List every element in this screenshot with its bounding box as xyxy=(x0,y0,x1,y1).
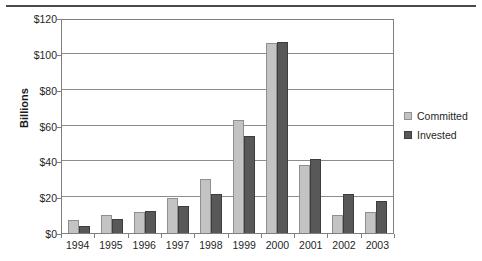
bar-invested-2003 xyxy=(376,201,387,233)
bar-group-1996 xyxy=(128,20,161,233)
y-tick-label-60: $60 xyxy=(11,121,57,133)
x-tick-mark-9 xyxy=(361,234,362,238)
x-tick-mark-3 xyxy=(161,234,162,238)
x-tick-mark-0 xyxy=(61,234,62,238)
bar-invested-2001 xyxy=(310,159,321,233)
plot-area xyxy=(61,19,394,234)
x-tick-mark-4 xyxy=(194,234,195,238)
bar-invested-1996 xyxy=(145,211,156,233)
x-tick-mark-7 xyxy=(294,234,295,238)
legend-swatch-committed-icon xyxy=(404,112,412,120)
bar-invested-1994 xyxy=(79,226,90,233)
bar-committed-2001 xyxy=(299,165,310,233)
chart-legend: CommittedInvested xyxy=(404,110,478,148)
bar-group-1998 xyxy=(194,20,227,233)
legend-item-invested: Invested xyxy=(404,129,478,141)
bar-group-1995 xyxy=(95,20,128,233)
x-tick-label-1999: 1999 xyxy=(227,239,260,251)
x-axis-ticks: 1994199519961997199819992000200120022003 xyxy=(61,239,394,251)
y-tick-label-100: $100 xyxy=(11,49,57,61)
legend-item-committed: Committed xyxy=(404,110,478,122)
bar-group-2001 xyxy=(294,20,327,233)
x-tick-mark-10 xyxy=(394,234,395,238)
y-tick-label-120: $120 xyxy=(11,13,57,25)
x-tick-label-1995: 1995 xyxy=(94,239,127,251)
legend-label-committed: Committed xyxy=(417,110,468,122)
x-tick-mark-5 xyxy=(228,234,229,238)
x-tick-label-1994: 1994 xyxy=(61,239,94,251)
header-divider xyxy=(6,5,476,7)
bar-committed-2003 xyxy=(365,212,376,234)
bar-committed-1994 xyxy=(68,220,79,233)
x-tick-label-2000: 2000 xyxy=(261,239,294,251)
bar-committed-1999 xyxy=(233,120,244,233)
bar-group-1994 xyxy=(62,20,95,233)
x-tick-mark-8 xyxy=(327,234,328,238)
bar-committed-1996 xyxy=(134,212,145,234)
y-tick-label-0: $0 xyxy=(11,228,57,240)
y-tick-label-20: $20 xyxy=(11,192,57,204)
x-tick-label-2001: 2001 xyxy=(294,239,327,251)
legend-swatch-invested-icon xyxy=(404,131,412,139)
bar-invested-2002 xyxy=(343,194,354,233)
y-tick-label-40: $40 xyxy=(11,156,57,168)
x-tick-mark-1 xyxy=(94,234,95,238)
bar-group-2002 xyxy=(327,20,360,233)
bar-group-1999 xyxy=(227,20,260,233)
bar-group-2000 xyxy=(261,20,294,233)
bar-committed-1995 xyxy=(101,215,112,233)
x-tick-label-2003: 2003 xyxy=(361,239,394,251)
bar-invested-1998 xyxy=(211,194,222,233)
x-tick-label-1996: 1996 xyxy=(128,239,161,251)
bar-group-1997 xyxy=(161,20,194,233)
bar-committed-1997 xyxy=(167,198,178,233)
bar-invested-1995 xyxy=(112,219,123,233)
x-tick-label-1998: 1998 xyxy=(194,239,227,251)
bar-invested-2000 xyxy=(277,42,288,233)
bar-group-2003 xyxy=(360,20,393,233)
bar-invested-1999 xyxy=(244,136,255,233)
bar-invested-1997 xyxy=(178,206,189,233)
bar-committed-2002 xyxy=(332,215,343,233)
bar-committed-2000 xyxy=(266,43,277,233)
bar-groups xyxy=(62,20,393,233)
bar-chart: Billions $0$20$40$60$80$100$120 19941995… xyxy=(0,0,482,261)
y-axis-ticks: $0$20$40$60$80$100$120 xyxy=(5,19,57,234)
x-tick-label-1997: 1997 xyxy=(161,239,194,251)
bar-committed-1998 xyxy=(200,179,211,233)
x-tick-label-2002: 2002 xyxy=(327,239,360,251)
x-tick-mark-2 xyxy=(128,234,129,238)
x-tick-mark-6 xyxy=(261,234,262,238)
y-tick-label-80: $80 xyxy=(11,85,57,97)
legend-label-invested: Invested xyxy=(417,129,457,141)
